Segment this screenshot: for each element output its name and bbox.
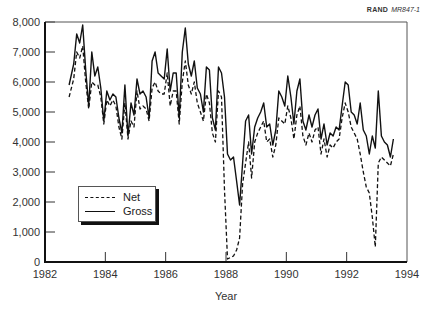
x-tick-label: 1988 <box>214 268 238 280</box>
x-tick-label: 1984 <box>93 268 117 280</box>
y-axis: 01,0002,0003,0004,0005,0006,0007,0008,00… <box>12 16 55 268</box>
y-tick-label: 2,000 <box>12 196 40 208</box>
x-tick-label: 1994 <box>395 268 419 280</box>
x-tick-label: 1986 <box>153 268 177 280</box>
y-tick-label: 6,000 <box>12 76 40 88</box>
x-tick-label: 1982 <box>33 268 57 280</box>
y-tick-label: 5,000 <box>12 106 40 118</box>
figure-code: MR847-1 <box>391 6 420 13</box>
figure-id-label: RANDMR847-1 <box>367 6 420 13</box>
y-tick-label: 3,000 <box>12 166 40 178</box>
y-tick-label: 7,000 <box>12 46 40 58</box>
net-series-line <box>69 46 393 259</box>
y-tick-label: 8,000 <box>12 16 40 28</box>
legend-label-gross: Gross <box>123 205 152 217</box>
x-tick-label: 1990 <box>274 268 298 280</box>
org-label: RAND <box>367 6 388 13</box>
y-tick-label: 4,000 <box>12 136 40 148</box>
solid-line-swatch-icon <box>85 211 115 212</box>
legend-label-net: Net <box>123 191 140 203</box>
dashed-line-swatch-icon <box>85 197 115 198</box>
line-chart: 01,0002,0003,0004,0005,0006,0007,0008,00… <box>0 0 430 311</box>
y-tick-label: 1,000 <box>12 226 40 238</box>
legend-item-net: Net <box>85 190 140 204</box>
legend-item-gross: Gross <box>85 204 152 218</box>
legend: Net Gross <box>78 186 156 222</box>
x-tick-label: 1992 <box>334 268 358 280</box>
y-tick-label: 0 <box>34 256 40 268</box>
x-axis-title: Year <box>215 290 238 302</box>
x-axis: 1982198419861988199019921994 <box>33 252 419 280</box>
